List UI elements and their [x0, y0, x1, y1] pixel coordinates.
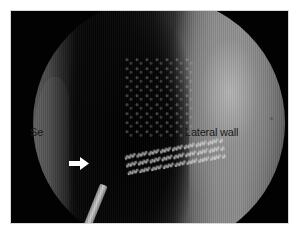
right-arrow-icon	[69, 157, 89, 170]
mucosa-speckle-upper	[125, 57, 195, 137]
image-frame	[11, 11, 288, 223]
lateral-wall-label: Lateral wall	[185, 126, 238, 138]
septum-region	[33, 77, 73, 223]
septum-label: Se	[30, 126, 43, 138]
scope-edge-marker-icon	[270, 117, 273, 120]
endoscope-circular-view	[33, 11, 285, 223]
